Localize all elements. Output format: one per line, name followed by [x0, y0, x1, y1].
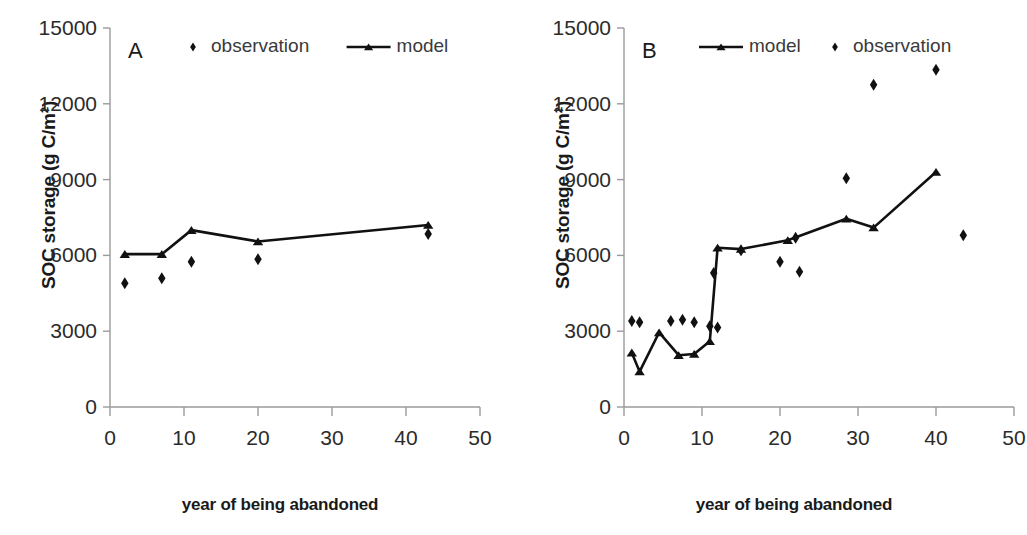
- x-tick-label: 20: [768, 426, 791, 449]
- panel-b-plot: 0300060009000120001500001020304050Bmodel…: [514, 0, 1027, 470]
- x-tick-label: 40: [394, 426, 417, 449]
- x-tick-label: 40: [924, 426, 947, 449]
- observation-data-point: [628, 315, 635, 327]
- observation-data-point: [679, 314, 686, 326]
- y-tick-label: 3000: [564, 319, 611, 342]
- observation-data-point: [776, 256, 783, 268]
- panel-letter: A: [128, 38, 143, 63]
- observation-data-point: [690, 316, 697, 328]
- observation-data-point: [188, 256, 195, 268]
- model-data-point: [634, 368, 644, 376]
- y-tick-label: 0: [85, 395, 97, 418]
- observation-data-point: [667, 315, 674, 327]
- observation-data-point: [254, 253, 261, 265]
- model-data-point: [705, 337, 715, 345]
- observation-data-point: [932, 64, 939, 76]
- panel-letter: B: [642, 38, 657, 63]
- observation-data-point: [792, 232, 799, 244]
- x-tick-label: 50: [1002, 426, 1025, 449]
- model-data-point: [627, 349, 637, 357]
- x-tick-label: 10: [172, 426, 195, 449]
- x-tick-label: 30: [320, 426, 343, 449]
- x-tick-label: 0: [104, 426, 116, 449]
- x-tick-label: 0: [618, 426, 630, 449]
- y-tick-label: 9000: [564, 168, 611, 191]
- legend-label: observation: [211, 35, 309, 56]
- panel-a-x-axis-title: year of being abandoned: [60, 495, 500, 515]
- panel-b: SOC storage (g C/m²) year of being aband…: [514, 0, 1027, 535]
- legend-label: model: [749, 35, 801, 56]
- y-tick-label: 9000: [50, 168, 97, 191]
- legend-item-observation: observation: [190, 35, 309, 56]
- legend-item-model: model: [699, 35, 801, 56]
- figure-container: SOC storage (g C/m²) year of being aband…: [0, 0, 1027, 535]
- observation-data-point: [636, 316, 643, 328]
- observation-data-point: [843, 172, 850, 184]
- y-tick-label: 0: [599, 395, 611, 418]
- observation-data-point: [714, 321, 721, 333]
- observation-data-point: [870, 79, 877, 91]
- legend-label: model: [397, 35, 449, 56]
- y-tick-label: 6000: [564, 243, 611, 266]
- panel-a-plot: 0300060009000120001500001020304050Aobser…: [0, 0, 513, 470]
- legend-label: observation: [853, 35, 951, 56]
- y-tick-label: 6000: [50, 243, 97, 266]
- x-tick-label: 30: [846, 426, 869, 449]
- observation-data-point: [796, 266, 803, 278]
- x-tick-label: 50: [468, 426, 491, 449]
- observation-data-point: [424, 228, 431, 240]
- observation-data-point: [737, 244, 744, 256]
- model-line-path: [632, 172, 936, 372]
- y-tick-label: 15000: [39, 16, 97, 39]
- false: [190, 42, 196, 51]
- observation-data-point: [158, 272, 165, 284]
- x-tick-label: 10: [690, 426, 713, 449]
- observation-data-point: [960, 229, 967, 241]
- model-data-point: [931, 168, 941, 176]
- panel-a: SOC storage (g C/m²) year of being aband…: [0, 0, 513, 535]
- observation-data-point: [121, 277, 128, 289]
- y-tick-label: 12000: [553, 92, 611, 115]
- legend-item-model: model: [347, 35, 449, 56]
- y-tick-label: 12000: [39, 92, 97, 115]
- legend-item-observation: observation: [832, 35, 951, 56]
- model-line-path: [125, 225, 428, 254]
- model-data-point: [654, 328, 664, 336]
- false: [832, 42, 838, 51]
- y-tick-label: 15000: [553, 16, 611, 39]
- panel-b-x-axis-title: year of being abandoned: [574, 495, 1014, 515]
- x-tick-label: 20: [246, 426, 269, 449]
- y-tick-label: 3000: [50, 319, 97, 342]
